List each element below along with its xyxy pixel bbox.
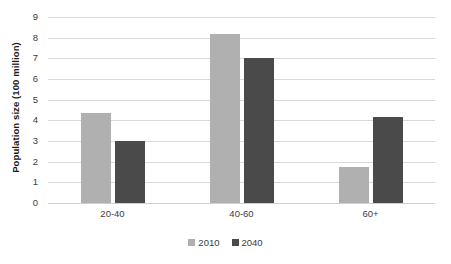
bar	[210, 34, 240, 203]
bars-layer	[48, 17, 435, 203]
y-tick-label: 0	[33, 198, 38, 208]
y-axis-tick-labels: 0123456789	[0, 17, 44, 203]
y-tick-label: 2	[33, 157, 38, 167]
bar	[81, 113, 111, 203]
x-axis-category-labels: 20-4040-6060+	[48, 208, 435, 226]
chart-legend: 20102040	[0, 238, 451, 248]
bar-group	[306, 17, 435, 203]
axis-baseline	[48, 203, 435, 204]
y-tick-label: 9	[33, 12, 38, 22]
y-tick-label: 8	[33, 33, 38, 43]
bar	[115, 141, 145, 203]
bar	[339, 167, 369, 203]
legend-item-2010[interactable]: 2010	[188, 238, 219, 248]
legend-swatch-icon	[188, 239, 195, 246]
x-tick-label: 20-40	[100, 208, 124, 219]
bar-group	[177, 17, 306, 203]
bar	[244, 58, 274, 203]
legend-item-2040[interactable]: 2040	[232, 238, 263, 248]
bar	[373, 117, 403, 203]
y-tick-label: 4	[33, 116, 38, 126]
y-tick-label: 1	[33, 178, 38, 188]
y-tick-label: 5	[33, 95, 38, 105]
bar-group	[48, 17, 177, 203]
bar-chart: Population size (100 million) 0123456789…	[0, 0, 451, 264]
legend-label: 2010	[198, 238, 219, 248]
y-tick-label: 6	[33, 74, 38, 84]
x-tick-label: 60+	[362, 208, 378, 219]
legend-swatch-icon	[232, 239, 239, 246]
x-tick-label: 40-60	[229, 208, 253, 219]
y-tick-label: 3	[33, 136, 38, 146]
legend-label: 2040	[242, 238, 263, 248]
y-tick-label: 7	[33, 54, 38, 64]
